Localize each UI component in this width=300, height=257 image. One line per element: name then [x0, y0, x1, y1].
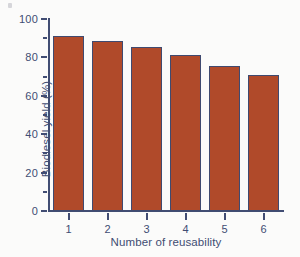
- x-axis-tick-label: 4: [182, 223, 188, 235]
- y-axis-tick-label: 0: [32, 205, 38, 217]
- x-axis-tick: [185, 213, 187, 220]
- y-axis-tick-label: 20: [25, 167, 38, 179]
- x-axis-tick-label: 2: [104, 223, 110, 235]
- x-axis-tick-label: 3: [143, 223, 149, 235]
- x-axis-tick-label: 1: [65, 223, 71, 235]
- x-axis-tick: [146, 213, 148, 220]
- x-axis-tick: [68, 213, 70, 220]
- bar: [209, 66, 240, 211]
- y-axis-tick-label: 100: [19, 13, 38, 25]
- y-axis-tick-label: 80: [25, 51, 38, 63]
- x-axis-title: Number of reusability: [49, 236, 283, 248]
- scan-artifact-mark: [8, 3, 12, 8]
- plot-area: 020406080100123456: [49, 19, 283, 211]
- x-axis-tick: [107, 213, 109, 220]
- x-axis-tick: [263, 213, 265, 220]
- x-axis-tick-label: 6: [260, 223, 266, 235]
- bar-chart-figure: 020406080100123456 Biodiesel yield (%) N…: [0, 0, 300, 257]
- bar: [170, 55, 201, 211]
- x-axis-tick-label: 5: [221, 223, 227, 235]
- bar: [131, 47, 162, 211]
- y-axis-tick-label: 40: [25, 128, 38, 140]
- bar: [92, 41, 123, 211]
- bar: [248, 75, 279, 211]
- x-axis-tick: [224, 213, 226, 220]
- y-axis-tick-label: 60: [25, 90, 38, 102]
- bar: [53, 36, 84, 211]
- y-axis-major-tick: [41, 18, 47, 20]
- y-axis-title: Biodiesel yield (%): [40, 39, 52, 219]
